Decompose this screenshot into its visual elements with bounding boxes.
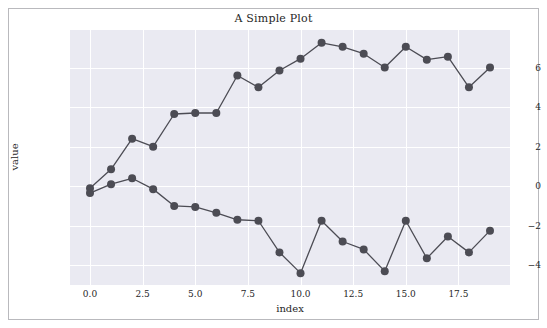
data-point-marker (465, 248, 473, 256)
data-point-marker (170, 202, 178, 210)
data-point-marker (107, 180, 115, 188)
data-point-marker (149, 143, 157, 151)
data-point-marker (191, 203, 199, 211)
data-point-marker (297, 55, 305, 63)
data-point-marker (212, 109, 220, 117)
data-point-marker (170, 110, 178, 118)
x-tick-label: 0.0 (65, 289, 115, 299)
x-tick-label: 17.5 (433, 289, 483, 299)
data-point-marker (423, 56, 431, 64)
chart-title: A Simple Plot (0, 12, 547, 25)
data-point-marker (149, 185, 157, 193)
data-point-marker (191, 109, 199, 117)
data-point-marker (318, 39, 326, 47)
data-point-marker (339, 238, 347, 246)
x-tick-label: 2.5 (118, 289, 168, 299)
data-point-marker (254, 83, 262, 91)
data-point-marker (233, 71, 241, 79)
y-tick-label: −4 (485, 260, 547, 270)
chart-figure: A Simple Plot 6420−2−4 0.02.55.07.510.01… (0, 0, 547, 328)
data-point-marker (233, 216, 241, 224)
data-point-marker (128, 135, 136, 143)
data-point-marker (402, 43, 410, 51)
data-point-marker (360, 245, 368, 253)
y-tick-label: −2 (485, 221, 547, 231)
y-tick-label: 2 (485, 142, 547, 152)
data-point-marker (107, 165, 115, 173)
data-point-marker (128, 174, 136, 182)
x-tick-label: 15.0 (381, 289, 431, 299)
x-axis-label: index (70, 303, 510, 314)
data-point-marker (360, 50, 368, 58)
y-tick-label: 0 (485, 181, 547, 191)
data-point-marker (212, 209, 220, 217)
data-point-marker (444, 53, 452, 61)
data-point-marker (275, 67, 283, 75)
x-tick-label: 7.5 (223, 289, 273, 299)
data-point-marker (465, 83, 473, 91)
x-tick-label: 5.0 (170, 289, 220, 299)
data-series-series-a (86, 39, 494, 192)
data-point-marker (297, 269, 305, 277)
data-point-marker (86, 189, 94, 197)
y-axis-label: value (9, 143, 20, 170)
data-point-marker (254, 217, 262, 225)
x-tick-label: 10.0 (276, 289, 326, 299)
data-point-marker (423, 254, 431, 262)
data-series-canvas (70, 30, 510, 285)
data-point-marker (402, 217, 410, 225)
data-point-marker (339, 43, 347, 51)
data-point-marker (444, 233, 452, 241)
data-series-series-b (86, 174, 494, 277)
y-tick-label: 4 (485, 102, 547, 112)
data-point-marker (381, 267, 389, 275)
data-point-marker (381, 64, 389, 72)
y-tick-label: 6 (485, 63, 547, 73)
plot-area (70, 30, 510, 285)
x-tick-label: 12.5 (328, 289, 378, 299)
data-point-marker (275, 248, 283, 256)
series-line (90, 43, 490, 188)
data-point-marker (318, 217, 326, 225)
